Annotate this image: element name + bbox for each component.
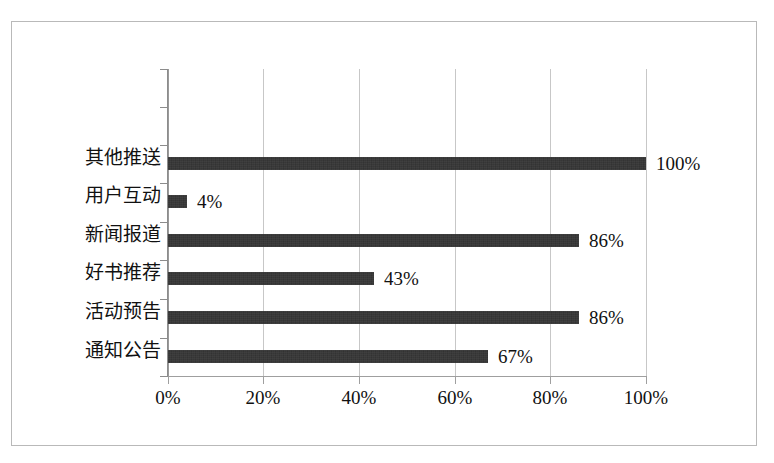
y-axis-category-label: 通知公告 xyxy=(16,341,161,360)
y-axis-tick xyxy=(160,183,168,184)
y-axis-tick xyxy=(160,145,168,146)
bar-value-label: 67% xyxy=(498,347,533,366)
bar-huodongyugao[interactable] xyxy=(168,311,579,324)
gridline-40 xyxy=(359,69,360,376)
y-axis-category-label: 新闻报道 xyxy=(16,225,161,244)
x-axis-line xyxy=(168,376,647,377)
gridline-100 xyxy=(646,69,647,376)
x-axis-tick-label: 0% xyxy=(128,387,208,409)
y-axis-category-label: 好书推荐 xyxy=(16,263,161,282)
chart-frame: 100% 4% 86% 43% 86% 67% 其他推送 用户互动 新闻报 xyxy=(11,21,757,446)
bar-haoshutuijian[interactable] xyxy=(168,272,374,285)
bar-yonghuhudong[interactable] xyxy=(168,195,187,208)
x-axis-tick xyxy=(455,377,456,384)
bar-qitatuisong[interactable] xyxy=(168,157,646,170)
y-axis-tick xyxy=(160,260,168,261)
y-axis-tick xyxy=(160,299,168,300)
bar-row: 67% xyxy=(168,350,646,363)
plot-area: 100% 4% 86% 43% 86% 67% xyxy=(168,69,646,376)
x-axis-tick-label: 40% xyxy=(319,387,399,409)
x-axis-tick xyxy=(263,377,264,384)
x-axis-tick xyxy=(550,377,551,384)
bar-row: 86% xyxy=(168,234,646,247)
bar-row: 100% xyxy=(168,157,646,170)
x-axis-tick-label: 20% xyxy=(223,387,303,409)
bar-value-label: 86% xyxy=(589,308,624,327)
bar-value-label: 43% xyxy=(384,269,419,288)
bar-row: 86% xyxy=(168,311,646,324)
bar-tongzhigonggao[interactable] xyxy=(168,350,488,363)
bar-row: 43% xyxy=(168,272,646,285)
x-axis-tick xyxy=(168,377,169,384)
y-axis-category-label: 用户互动 xyxy=(16,186,161,205)
gridline-80 xyxy=(550,69,551,376)
gridline-20 xyxy=(263,69,264,376)
y-axis-tick xyxy=(160,338,168,339)
bar-xinwenbaodao[interactable] xyxy=(168,234,579,247)
y-axis-tick xyxy=(160,69,168,70)
y-axis-category-label: 活动预告 xyxy=(16,302,161,321)
y-axis-tick xyxy=(160,107,168,108)
bar-value-label: 4% xyxy=(197,192,222,211)
bar-row: 4% xyxy=(168,195,646,208)
x-axis-tick-label: 100% xyxy=(606,387,686,409)
y-axis-tick xyxy=(160,376,168,377)
gridline-0 xyxy=(168,69,169,376)
x-axis-tick xyxy=(646,377,647,384)
x-axis-tick-label: 60% xyxy=(415,387,495,409)
x-axis-tick xyxy=(359,377,360,384)
y-axis-category-label: 其他推送 xyxy=(16,148,161,167)
bar-value-label: 86% xyxy=(589,231,624,250)
x-axis-tick-label: 80% xyxy=(510,387,590,409)
y-axis-tick xyxy=(160,222,168,223)
gridline-60 xyxy=(455,69,456,376)
bar-value-label: 100% xyxy=(656,154,700,173)
